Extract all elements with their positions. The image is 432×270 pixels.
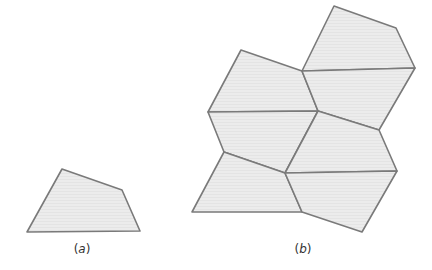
panel-a-label: (a)	[74, 242, 91, 256]
panel-b-label: (b)	[295, 242, 312, 256]
figure-canvas	[0, 0, 432, 270]
panel-b-tiling	[192, 6, 415, 232]
quadrilateral-tile	[208, 50, 318, 112]
quadrilateral-tile	[302, 6, 415, 71]
panel-a-quadrilateral	[27, 169, 140, 232]
quadrilateral-tile	[27, 169, 140, 232]
quadrilateral-tile	[285, 171, 397, 232]
